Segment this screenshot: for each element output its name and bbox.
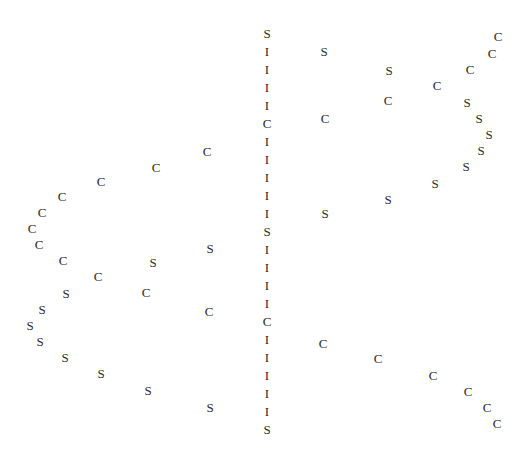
data-point-s: S	[206, 242, 213, 255]
data-point-i: I	[265, 297, 269, 310]
data-point-i: I	[265, 189, 269, 202]
data-point-s: S	[385, 64, 392, 77]
data-point-i: I	[265, 333, 269, 346]
data-point-i: I	[265, 351, 269, 364]
data-point-c: C	[433, 79, 442, 92]
data-point-i: I	[265, 261, 269, 274]
data-point-s: S	[38, 303, 45, 316]
data-point-i: I	[265, 405, 269, 418]
data-point-c: C	[263, 315, 272, 328]
data-point-s: S	[463, 96, 470, 109]
data-point-s: S	[462, 160, 469, 173]
data-point-i: I	[265, 369, 269, 382]
data-point-c: C	[97, 175, 106, 188]
character-scatter-plot: CCCCCCCCCCCSSSSSSSSSSSIIIICIIIIISIIIICII…	[0, 0, 532, 449]
data-point-i: I	[265, 135, 269, 148]
data-point-i: I	[265, 99, 269, 112]
data-point-i: I	[265, 81, 269, 94]
data-point-c: C	[94, 270, 103, 283]
data-point-i: I	[265, 171, 269, 184]
data-point-s: S	[206, 401, 213, 414]
data-point-c: C	[321, 112, 330, 125]
data-point-c: C	[494, 30, 503, 43]
data-point-c: C	[205, 305, 214, 318]
data-point-i: I	[265, 387, 269, 400]
data-point-s: S	[384, 193, 391, 206]
data-point-s: S	[26, 319, 33, 332]
data-point-s: S	[61, 351, 68, 364]
data-point-c: C	[374, 352, 383, 365]
data-point-c: C	[488, 47, 497, 60]
data-point-c: C	[466, 63, 475, 76]
data-point-c: C	[263, 117, 272, 130]
data-point-c: C	[384, 94, 393, 107]
data-point-c: C	[493, 417, 502, 430]
data-point-i: I	[265, 207, 269, 220]
data-point-c: C	[429, 369, 438, 382]
data-point-c: C	[203, 145, 212, 158]
data-point-c: C	[58, 190, 67, 203]
data-point-s: S	[477, 144, 484, 157]
data-point-c: C	[464, 385, 473, 398]
data-point-c: C	[35, 238, 44, 251]
data-point-c: C	[142, 286, 151, 299]
data-point-c: C	[59, 254, 68, 267]
data-point-c: C	[152, 161, 161, 174]
data-point-i: I	[265, 63, 269, 76]
data-point-s: S	[475, 112, 482, 125]
data-point-i: I	[265, 279, 269, 292]
data-point-c: C	[28, 222, 37, 235]
data-point-i: I	[265, 243, 269, 256]
data-point-s: S	[263, 423, 270, 436]
data-point-s: S	[263, 27, 270, 40]
data-point-c: C	[483, 401, 492, 414]
data-point-s: S	[149, 256, 156, 269]
data-point-i: I	[265, 45, 269, 58]
data-point-s: S	[485, 128, 492, 141]
data-point-s: S	[36, 335, 43, 348]
data-point-s: S	[431, 177, 438, 190]
data-point-s: S	[321, 207, 328, 220]
data-point-c: C	[319, 337, 328, 350]
data-point-s: S	[97, 367, 104, 380]
data-point-s: S	[62, 287, 69, 300]
data-point-s: S	[263, 225, 270, 238]
data-point-s: S	[320, 45, 327, 58]
data-point-c: C	[38, 206, 47, 219]
data-point-i: I	[265, 153, 269, 166]
data-point-s: S	[144, 384, 151, 397]
